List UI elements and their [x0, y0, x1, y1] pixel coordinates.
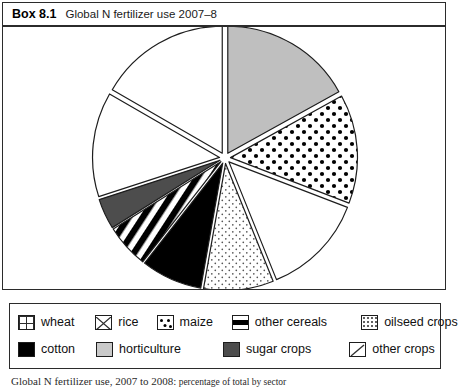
pie-chart-svg	[91, 27, 359, 289]
legend-swatch-oilseed-crops	[361, 315, 378, 330]
legend-swatch-other-cereals	[232, 315, 249, 330]
legend-swatch-wheat	[18, 315, 35, 330]
caption-lead: Global N fertilizer use, 2007 to 2008:	[11, 375, 176, 387]
legend-swatch-horticulture	[96, 342, 113, 357]
legend-item-horticulture: horticulture	[96, 342, 181, 357]
legend-item-other-cereals: other cereals	[232, 315, 327, 330]
legend-swatch-other-crops	[349, 342, 366, 357]
figure-caption: Global N fertilizer use, 2007 to 2008: p…	[11, 375, 441, 387]
legend-swatch-sugar-crops	[223, 342, 240, 357]
legend-label-cotton: cotton	[41, 343, 75, 356]
legend-swatch-maize	[157, 315, 174, 330]
legend-swatch-cotton	[18, 342, 35, 357]
caption-rest: percentage of total by sector	[176, 377, 286, 387]
legend-label-oilseed-crops: oilseed crops	[384, 316, 458, 329]
rice-pattern-icon	[96, 317, 111, 330]
legend-item-sugar-crops: sugar crops	[223, 342, 311, 357]
legend-item-oilseed-crops: oilseed crops	[361, 315, 458, 330]
box-header: Box 8.1 Global N fertilizer use 2007–8	[3, 3, 445, 27]
legend-item-maize: maize	[157, 315, 213, 330]
legend-item-wheat: wheat	[18, 315, 74, 330]
legend-item-rice: rice	[95, 315, 138, 330]
other-crops-pattern-icon	[350, 344, 365, 357]
legend-label-wheat: wheat	[41, 316, 74, 329]
legend-label-sugar-crops: sugar crops	[246, 343, 311, 356]
legend-label-other-cereals: other cereals	[255, 316, 327, 329]
box-number: Box 8.1	[12, 7, 56, 21]
legend-label-horticulture: horticulture	[119, 343, 181, 356]
legend-item-cotton: cotton	[18, 342, 75, 357]
box-title: Global N fertilizer use 2007–8	[65, 8, 217, 20]
pie-chart	[5, 27, 445, 289]
box-frame: Box 8.1 Global N fertilizer use 2007–8	[2, 2, 446, 290]
chart-legend: wheat rice maize other cer	[9, 303, 441, 369]
legend-label-rice: rice	[118, 316, 138, 329]
legend-swatch-rice	[95, 315, 112, 330]
legend-label-maize: maize	[180, 316, 213, 329]
legend-row-1: wheat rice maize other cer	[18, 309, 434, 336]
maize-pattern-icon	[158, 317, 173, 330]
legend-label-other-crops: other crops	[372, 343, 435, 356]
legend-item-other-crops: other crops	[349, 342, 435, 357]
pie-final	[93, 27, 358, 289]
legend-row-2: cotton horticulture sugar crops other cr…	[18, 336, 434, 363]
